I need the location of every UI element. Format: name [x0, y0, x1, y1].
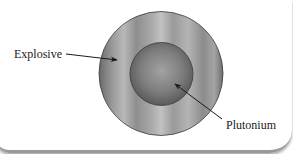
diagram-frame: Explosive Plutonium [0, 0, 293, 154]
plutonium-core [130, 43, 193, 106]
explosive-label: Explosive [14, 48, 62, 60]
plutonium-label: Plutonium [226, 119, 276, 131]
